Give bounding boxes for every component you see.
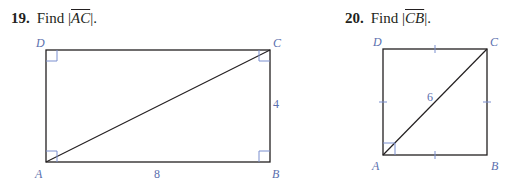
right-angle-mark-d (46, 50, 57, 61)
rectangle-figure-19: D C A B 4 8 (34, 36, 282, 181)
diagonal-ac (383, 49, 487, 155)
figures-canvas: D C A B 4 8 D C A B 6 (0, 0, 522, 186)
right-angle-mark-b (259, 151, 270, 162)
vertex-label-d: D (35, 36, 45, 50)
diagonal-length: 6 (427, 90, 433, 104)
diagonal-ac (46, 50, 270, 162)
vertex-label-c: C (273, 36, 282, 50)
vertex-label-d: D (372, 35, 382, 49)
side-length-bc: 4 (273, 97, 279, 111)
vertex-label-a: A (371, 159, 380, 173)
side-length-ab: 8 (154, 167, 160, 181)
square-figure-20: D C A B 6 (371, 35, 499, 173)
right-angle-mark-c (259, 50, 270, 61)
vertex-label-c: C (490, 35, 499, 49)
vertex-label-b: B (491, 159, 499, 173)
right-angle-mark-a (46, 151, 57, 162)
vertex-label-a: A (34, 167, 43, 181)
vertex-label-b: B (272, 167, 280, 181)
